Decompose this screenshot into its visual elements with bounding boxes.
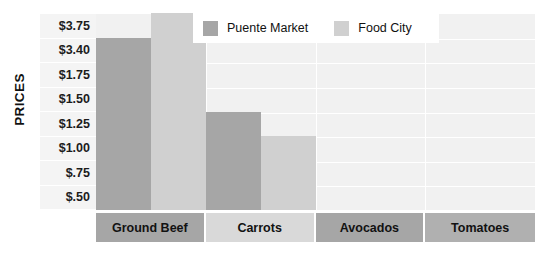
y-tick-label: $.75 <box>40 161 96 186</box>
bar-chart: PRICES $3.75 $3.40 $1.75 $1.50 $1.25 $1.… <box>0 0 537 263</box>
category-label-tomatoes: Tomatoes <box>425 213 535 242</box>
y-tick-label: $1.75 <box>40 63 96 88</box>
legend-swatch-icon <box>203 21 218 36</box>
category-label-ground-beef: Ground Beef <box>96 213 206 242</box>
category-label-avocados: Avocados <box>316 213 426 242</box>
gridline-vertical <box>425 14 426 210</box>
y-tick-label: $1.00 <box>40 137 96 162</box>
y-axis-tick-labels: $3.75 $3.40 $1.75 $1.50 $1.25 $1.00 $.75… <box>40 13 96 210</box>
y-tick-label: $1.25 <box>40 112 96 137</box>
category-axis-strip: Ground Beef Carrots Avocados Tomatoes <box>96 213 535 242</box>
y-tick-label: $3.75 <box>40 13 96 39</box>
legend-item-puente-market: Puente Market <box>203 21 308 36</box>
legend-item-food-city: Food City <box>334 21 412 36</box>
y-axis-title: PRICES <box>12 60 27 140</box>
y-tick-label: $1.50 <box>40 88 96 113</box>
legend: Puente Market Food City <box>193 13 439 43</box>
y-tick-label: $.50 <box>40 186 96 211</box>
chart-title <box>0 0 537 3</box>
gridline-vertical <box>316 14 317 210</box>
category-label-carrots: Carrots <box>206 213 316 242</box>
y-tick-label: $3.40 <box>40 39 96 64</box>
bar-ground-beef-puente-market <box>96 38 151 210</box>
legend-label: Puente Market <box>227 21 308 35</box>
legend-label: Food City <box>358 21 412 35</box>
legend-swatch-icon <box>334 21 349 36</box>
bar-carrots-puente-market <box>206 112 261 211</box>
bar-carrots-food-city <box>261 136 316 210</box>
